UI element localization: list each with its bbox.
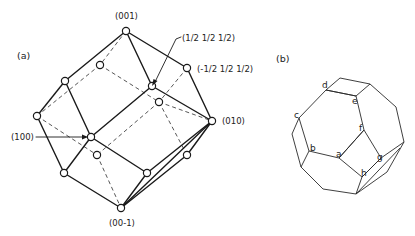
node-001: [122, 27, 129, 34]
label-00-1: (00-1): [109, 218, 135, 228]
node-lower-right: [183, 151, 190, 158]
label-010: (010): [222, 116, 245, 126]
node-hidden-center: [155, 98, 162, 105]
vertex-label-g: g: [377, 152, 383, 162]
polyhedron-edges: [292, 78, 404, 194]
panel-a-label: (a): [17, 50, 30, 61]
node-neg-half: [183, 64, 190, 71]
node-far-left: [33, 112, 40, 119]
vertex-label-a: a: [336, 149, 342, 159]
node-hidden-upper: [96, 61, 103, 68]
node-010: [208, 117, 215, 124]
node-lower-mid: [143, 169, 150, 176]
panel-b-label: (b): [276, 53, 289, 64]
node-100: [87, 133, 94, 140]
panel-b: (b) d e c f b a: [276, 53, 404, 194]
node-hidden-lower: [93, 151, 100, 158]
panel-a: (a): [11, 11, 253, 228]
vertex-labels: d e c f b a g h: [294, 80, 383, 178]
annotation-arrows: [36, 37, 181, 140]
vertex-label-d: d: [322, 80, 328, 90]
lattice-nodes: [33, 27, 215, 211]
node-lower-left: [60, 169, 67, 176]
node-upper-left: [61, 77, 68, 84]
vertex-label-h: h: [361, 168, 367, 178]
hidden-edges: [37, 31, 212, 208]
figure-canvas: (a): [0, 0, 415, 236]
label-half-pos: (1/2 1/2 1/2): [182, 33, 235, 43]
label-half-neg: (-1/2 1/2 1/2): [197, 64, 253, 74]
vertex-label-e: e: [352, 96, 358, 106]
vertex-label-b: b: [310, 143, 316, 153]
label-001: (001): [115, 11, 138, 21]
arrow-head-100: [82, 135, 88, 140]
visible-edges: [37, 31, 212, 208]
vertex-label-c: c: [294, 110, 299, 120]
label-100: (100): [11, 132, 34, 142]
node-00-1: [117, 204, 124, 211]
